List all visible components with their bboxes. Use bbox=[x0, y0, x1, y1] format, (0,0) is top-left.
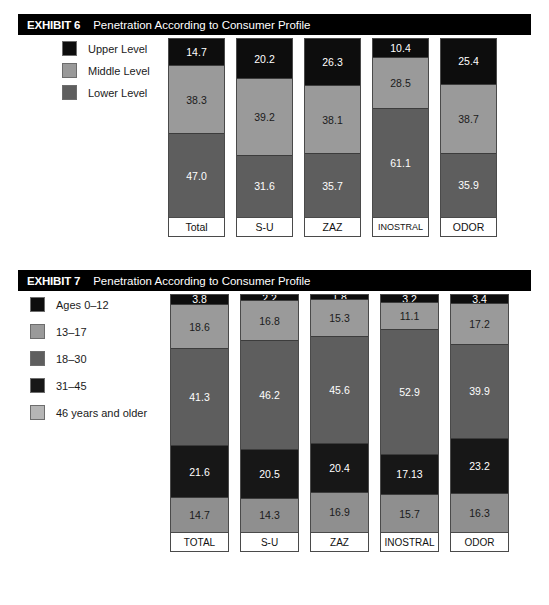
bar-segment: 14.7 bbox=[169, 39, 224, 65]
bar-segment: 17.13 bbox=[381, 454, 438, 495]
bar-segment: 38.3 bbox=[169, 65, 224, 133]
category-label: ODOR bbox=[450, 532, 509, 552]
bar-segment: 52.9 bbox=[381, 329, 438, 453]
bar-column: 1.815.345.620.416.9ZAZ bbox=[310, 294, 369, 552]
bar-segment: 20.5 bbox=[241, 449, 298, 498]
bar-segment: 16.8 bbox=[241, 300, 298, 340]
bar-segment: 18.6 bbox=[171, 304, 228, 348]
exhibit-7-chart: Ages 0–1213–1718–3031–4546 years and old… bbox=[18, 291, 531, 579]
bar-segment: 14.3 bbox=[241, 498, 298, 532]
bar-column: 25.438.735.9ODOR bbox=[440, 38, 497, 237]
bar-segment: 10.4 bbox=[373, 39, 428, 57]
legend-item-label: 18–30 bbox=[56, 353, 87, 365]
bar-column: 3.818.641.321.614.7TOTAL bbox=[170, 294, 229, 552]
bar-segment: 45.6 bbox=[311, 336, 368, 443]
bar-segment: 35.9 bbox=[441, 153, 496, 217]
category-label: INOSTRAL bbox=[372, 217, 429, 237]
legend-swatch-icon bbox=[30, 324, 45, 339]
stacked-bar: 14.738.347.0 bbox=[168, 38, 225, 217]
bar-segment: 23.2 bbox=[451, 438, 508, 493]
bar-segment: 21.6 bbox=[171, 445, 228, 496]
exhibit-7-plot-area: 3.818.641.321.614.7TOTAL2.216.846.220.51… bbox=[170, 294, 509, 552]
bar-segment: 16.9 bbox=[311, 492, 368, 532]
bar-segment: 28.5 bbox=[373, 57, 428, 108]
exhibit-6-title-bar: EXHIBIT 6 Penetration According to Consu… bbox=[18, 14, 531, 35]
legend-item: 18–30 bbox=[30, 351, 147, 366]
bar-segment: 26.3 bbox=[305, 39, 360, 85]
stacked-bar: 26.338.135.7 bbox=[304, 38, 361, 217]
legend-swatch-icon bbox=[62, 41, 77, 56]
legend-swatch-icon bbox=[30, 297, 45, 312]
bar-column: 3.417.239.923.216.3ODOR bbox=[450, 294, 509, 552]
stacked-bar: 3.211.152.917.1315.7 bbox=[380, 294, 439, 532]
legend-item: Middle Level bbox=[62, 63, 150, 78]
bar-segment: 38.1 bbox=[305, 85, 360, 153]
legend-item: Upper Level bbox=[62, 41, 150, 56]
legend-item-label: Upper Level bbox=[88, 43, 147, 55]
bar-segment: 3.8 bbox=[171, 295, 228, 304]
bar-segment: 41.3 bbox=[171, 348, 228, 445]
stacked-bar: 3.818.641.321.614.7 bbox=[170, 294, 229, 532]
category-label: S-U bbox=[240, 532, 299, 552]
stacked-bar: 1.815.345.620.416.9 bbox=[310, 294, 369, 532]
bar-segment: 3.2 bbox=[381, 295, 438, 302]
exhibit-7-number: EXHIBIT 7 bbox=[27, 275, 80, 287]
bar-segment: 38.7 bbox=[441, 84, 496, 153]
legend-swatch-icon bbox=[62, 63, 77, 78]
bar-column: 3.211.152.917.1315.7INOSTRAL bbox=[380, 294, 439, 552]
legend-swatch-icon bbox=[30, 351, 45, 366]
exhibit-7-title: Penetration According to Consumer Profil… bbox=[93, 275, 310, 287]
category-label: ODOR bbox=[440, 217, 497, 237]
legend-swatch-icon bbox=[30, 378, 45, 393]
bar-segment: 15.7 bbox=[381, 494, 438, 532]
stacked-bar: 20.239.231.6 bbox=[236, 38, 293, 217]
legend-item-label: Middle Level bbox=[88, 65, 150, 77]
bar-segment: 47.0 bbox=[169, 133, 224, 217]
category-label: ZAZ bbox=[310, 532, 369, 552]
bar-segment: 17.2 bbox=[451, 303, 508, 344]
bar-segment: 14.7 bbox=[171, 497, 228, 532]
exhibit-6-title: Penetration According to Consumer Profil… bbox=[93, 19, 310, 31]
exhibit-6-chart: Upper LevelMiddle LevelLower Level 14.73… bbox=[18, 35, 531, 241]
category-label: S-U bbox=[236, 217, 293, 237]
exhibit-7-title-bar: EXHIBIT 7 Penetration According to Consu… bbox=[18, 270, 531, 291]
bar-segment: 20.2 bbox=[237, 39, 292, 78]
legend-item: Ages 0–12 bbox=[30, 297, 147, 312]
category-label: TOTAL bbox=[170, 532, 229, 552]
category-label: INOSTRAL bbox=[380, 532, 439, 552]
category-label: ZAZ bbox=[304, 217, 361, 237]
bar-segment: 46.2 bbox=[241, 340, 298, 449]
stacked-bar: 10.428.561.1 bbox=[372, 38, 429, 217]
bar-segment: 39.2 bbox=[237, 78, 292, 155]
exhibit-6: EXHIBIT 6 Penetration According to Consu… bbox=[18, 14, 531, 241]
category-label: Total bbox=[168, 217, 225, 237]
legend-item: Lower Level bbox=[62, 85, 150, 100]
bar-column: 10.428.561.1INOSTRAL bbox=[372, 38, 429, 237]
bar-segment: 25.4 bbox=[441, 39, 496, 84]
exhibit-6-plot-area: 14.738.347.0Total20.239.231.6S-U26.338.1… bbox=[168, 38, 497, 237]
bar-segment: 3.4 bbox=[451, 295, 508, 303]
stacked-bar: 25.438.735.9 bbox=[440, 38, 497, 217]
bar-segment: 16.3 bbox=[451, 493, 508, 532]
legend-item-label: 31–45 bbox=[56, 380, 87, 392]
exhibit-7-legend: Ages 0–1213–1718–3031–4546 years and old… bbox=[30, 297, 147, 432]
bar-column: 26.338.135.7ZAZ bbox=[304, 38, 361, 237]
exhibit-6-number: EXHIBIT 6 bbox=[27, 19, 80, 31]
legend-item-label: Ages 0–12 bbox=[56, 299, 109, 311]
bar-segment: 39.9 bbox=[451, 344, 508, 438]
legend-item: 31–45 bbox=[30, 378, 147, 393]
bar-segment: 31.6 bbox=[237, 155, 292, 217]
bar-column: 2.216.846.220.514.3S-U bbox=[240, 294, 299, 552]
stacked-bar: 2.216.846.220.514.3 bbox=[240, 294, 299, 532]
bar-segment: 11.1 bbox=[381, 302, 438, 329]
legend-swatch-icon bbox=[30, 405, 45, 420]
legend-item-label: 13–17 bbox=[56, 326, 87, 338]
legend-item: 13–17 bbox=[30, 324, 147, 339]
bar-segment: 61.1 bbox=[373, 108, 428, 217]
bar-column: 14.738.347.0Total bbox=[168, 38, 225, 237]
legend-swatch-icon bbox=[62, 85, 77, 100]
exhibit-7: EXHIBIT 7 Penetration According to Consu… bbox=[18, 270, 531, 579]
legend-item-label: Lower Level bbox=[88, 87, 147, 99]
legend-item-label: 46 years and older bbox=[56, 407, 147, 419]
bar-segment: 15.3 bbox=[311, 299, 368, 336]
